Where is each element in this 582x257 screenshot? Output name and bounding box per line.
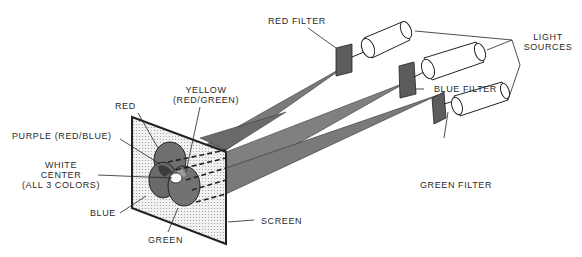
label-white-line2: CENTER (18, 170, 104, 180)
label-yellow-line1: YELLOW (168, 85, 244, 95)
green-filter-plate (432, 92, 446, 124)
label-green-filter: GREEN FILTER (420, 180, 492, 190)
label-red: RED (115, 101, 136, 111)
label-light-sources: LIGHT SOURCES (520, 32, 576, 52)
label-yellow-line2: (RED/GREEN) (168, 95, 244, 105)
red-light-source (352, 20, 414, 60)
label-screen: SCREEN (261, 216, 302, 226)
label-yellow: YELLOW (RED/GREEN) (168, 85, 244, 105)
red-filter-plate (336, 44, 352, 76)
label-white-center: WHITE CENTER (ALL 3 COLORS) (18, 160, 104, 190)
label-light-sources-line2: SOURCES (520, 42, 576, 52)
label-white-line1: WHITE (18, 160, 104, 170)
label-blue: BLUE (90, 208, 116, 218)
blue-filter-plate (399, 62, 416, 98)
label-blue-filter: BLUE FILTER (434, 84, 497, 94)
label-red-filter: RED FILTER (268, 16, 326, 26)
label-light-sources-line1: LIGHT (520, 32, 576, 42)
blue-light-source (414, 42, 488, 81)
light-sources (352, 20, 511, 116)
label-green: GREEN (148, 235, 183, 245)
label-purple: PURPLE (RED/BLUE) (12, 131, 112, 141)
label-white-line3: (ALL 3 COLORS) (18, 180, 104, 190)
